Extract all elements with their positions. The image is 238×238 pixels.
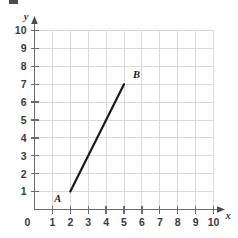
- x-axis-arrowhead: [217, 206, 225, 213]
- y-tick-label: 6: [21, 96, 27, 108]
- y-tick-label: 5: [21, 114, 27, 126]
- point-label-A: A: [53, 193, 61, 204]
- y-tick-label: 8: [21, 60, 27, 72]
- point-labels: AB: [53, 69, 140, 203]
- y-tick-label: 7: [21, 78, 27, 90]
- x-tick-label: 6: [139, 216, 145, 228]
- y-axis-arrowhead: [31, 16, 38, 24]
- y-axis-label: y: [22, 11, 29, 22]
- x-axis-label: x: [224, 210, 230, 221]
- y-tick-label: 4: [21, 132, 27, 144]
- y-tick-label: 2: [21, 168, 27, 180]
- y-tick-label: 9: [21, 42, 27, 54]
- y-tick-label: 1: [21, 185, 27, 197]
- x-tick-label: 1: [49, 216, 55, 228]
- y-axis-tick-labels: 12345678910: [15, 24, 27, 197]
- x-tick-label: 5: [121, 216, 127, 228]
- x-tick-label: 10: [208, 216, 220, 228]
- x-tick-label: 0: [25, 216, 31, 228]
- x-tick-label: 3: [85, 216, 91, 228]
- x-axis-tick-labels: 012345678910: [25, 216, 220, 228]
- x-tick-label: 8: [175, 216, 181, 228]
- y-tick-label: 10: [15, 24, 27, 36]
- x-tick-label: 7: [157, 216, 163, 228]
- coordinate-plot: 012345678910 12345678910 x y AB: [0, 0, 238, 238]
- point-label-B: B: [132, 69, 140, 80]
- x-tick-label: 2: [67, 216, 73, 228]
- y-tick-label: 3: [21, 150, 27, 162]
- coordinate-plane-figure: 012345678910 12345678910 x y AB: [0, 0, 238, 238]
- x-tick-label: 9: [193, 216, 199, 228]
- x-tick-label: 4: [103, 216, 109, 228]
